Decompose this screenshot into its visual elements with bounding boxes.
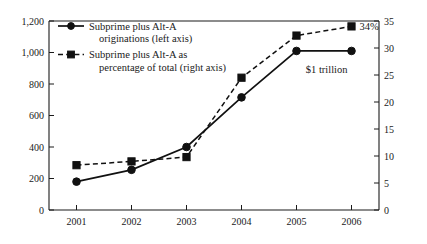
- series-dashed-path: [77, 26, 352, 165]
- right-tick-label: 35: [384, 16, 394, 27]
- data-point-marker: [128, 158, 135, 165]
- legend-item-originations: Subprime plus Alt-A originations (left a…: [58, 21, 193, 46]
- data-point-marker: [348, 47, 356, 55]
- data-point-marker: [238, 94, 246, 102]
- x-tick-label: 2002: [122, 216, 142, 227]
- right-tick-label: 5: [384, 178, 389, 189]
- legend-circle-marker: [68, 23, 75, 30]
- legend-item-percentage: Subprime plus Alt-A as percentage of tot…: [58, 49, 227, 74]
- annotation-percent-label: 34%: [360, 21, 380, 32]
- x-tick-label: 2003: [177, 216, 197, 227]
- left-tick-label: 0: [39, 205, 44, 216]
- left-tick-label: 400: [29, 142, 44, 153]
- annotations-layer: 34%$1 trillion: [306, 21, 379, 75]
- data-point-marker: [183, 143, 191, 151]
- right-tick-label: 15: [384, 124, 394, 135]
- data-point-marker: [128, 166, 136, 174]
- data-point-marker: [293, 32, 300, 39]
- right-tick-label: 20: [384, 97, 394, 108]
- right-axis-ticks: 05101520253035: [374, 16, 394, 216]
- data-series-layer: [73, 23, 356, 186]
- legend-label-originations-line2: originations (left axis): [99, 33, 193, 45]
- x-tick-label: 2006: [342, 216, 362, 227]
- legend-label-originations-line1: Subprime plus Alt-A: [89, 21, 177, 32]
- data-point-marker: [238, 74, 245, 81]
- data-point-marker: [73, 178, 81, 186]
- right-tick-label: 10: [384, 151, 394, 162]
- chart-container: 02004006008001,0001,200 05101520253035 2…: [0, 0, 427, 244]
- data-point-marker: [293, 47, 301, 55]
- left-tick-label: 600: [29, 110, 44, 121]
- right-tick-label: 0: [384, 205, 389, 216]
- right-tick-label: 25: [384, 70, 394, 81]
- data-point-marker: [183, 153, 190, 160]
- x-axis-ticks: 200120022003200420052006: [67, 205, 362, 227]
- subprime-alt-a-line-chart: 02004006008001,0001,200 05101520253035 2…: [0, 0, 427, 244]
- legend-label-percentage-line2: percentage of total (right axis): [99, 62, 227, 74]
- legend-label-percentage-line1: Subprime plus Alt-A as: [89, 49, 187, 60]
- x-tick-label: 2001: [67, 216, 87, 227]
- left-tick-label: 200: [29, 173, 44, 184]
- chart-legend: Subprime plus Alt-A originations (left a…: [58, 21, 227, 74]
- left-tick-label: 1,000: [22, 47, 45, 58]
- right-tick-label: 30: [384, 43, 394, 54]
- annotation-dollar-label: $1 trillion: [306, 64, 348, 75]
- x-tick-label: 2004: [232, 216, 252, 227]
- data-point-marker: [73, 162, 80, 169]
- data-point-marker: [348, 23, 355, 30]
- x-tick-label: 2005: [287, 216, 307, 227]
- series-percentage: [73, 23, 355, 169]
- legend-square-marker: [68, 51, 75, 58]
- left-tick-label: 1,200: [22, 16, 45, 27]
- left-tick-label: 800: [29, 79, 44, 90]
